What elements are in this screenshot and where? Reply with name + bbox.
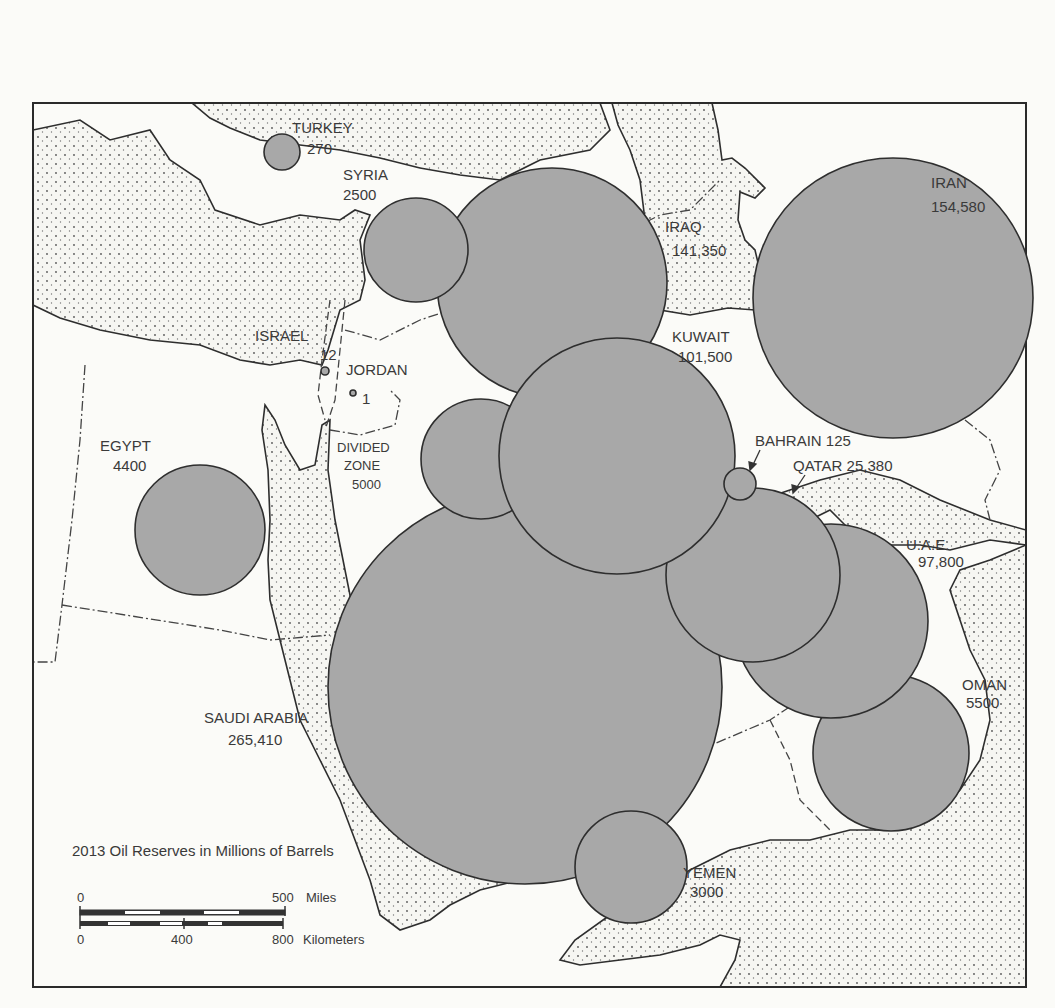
label-yemen-name: YEMEN [683,864,736,881]
map-title: 2013 Oil Reserves in Millions of Barrels [72,842,334,859]
label-iran-value: 154,580 [931,198,985,215]
scale-miles-gap-1 [125,911,160,914]
scale-km-end: 800 [272,932,294,947]
bubble-israel[interactable] [321,367,329,375]
label-saudi-name: SAUDI ARABIA [204,709,308,726]
bubble-iran[interactable] [753,158,1033,438]
scale-km-gap-2 [160,922,182,925]
label-oman-name: OMAN [962,676,1007,693]
label-iraq-name: IRAQ [665,218,702,235]
label-iran-name: IRAN [931,174,967,191]
label-divided-zone-line2: ZONE [344,458,380,473]
bubble-turkey[interactable] [264,134,300,170]
label-turkey-name: TURKEY [292,119,353,136]
bubble-syria[interactable] [364,198,468,302]
scale-bar: 0 500 Miles 0 400 800 Kilometers [77,890,365,947]
label-israel-value: 12 [320,346,337,363]
label-jordan-value: 1 [362,390,370,407]
label-kuwait-value: 101,500 [678,348,732,365]
label-divided-zone-value: 5000 [352,477,381,492]
border-egypt-libya [33,365,85,662]
label-saudi-value: 265,410 [228,731,282,748]
scale-miles-bar-fill [80,910,285,915]
label-egypt-name: EGYPT [100,437,151,454]
label-qatar: QATAR 25,380 [793,457,893,474]
label-jordan-name: JORDAN [346,361,408,378]
label-uae-name: U.A.E. [906,536,949,553]
label-divided-zone-line1: DIVIDED [337,440,390,455]
border-iran-pakistan [965,420,1000,520]
bubble-bahrain[interactable] [724,468,756,500]
bubble-egypt[interactable] [135,465,265,595]
scale-km-unit: Kilometers [303,932,365,947]
bubble-kuwait[interactable] [499,338,735,574]
label-oman-value: 5500 [966,694,999,711]
label-syria-value: 2500 [343,186,376,203]
border-jordan-iraq [345,310,450,340]
label-iraq-value: 141,350 [672,242,726,259]
scale-km-gap-3 [208,922,222,925]
bahrain-arrow-head [749,462,756,470]
scale-miles-start: 0 [77,890,84,905]
label-turkey-value: 270 [307,140,332,157]
label-kuwait-name: KUWAIT [672,328,730,345]
label-egypt-value: 4400 [113,457,146,474]
bubble-yemen[interactable] [575,811,687,923]
oil-reserves-map: TURKEY 270 SYRIA 2500 IRAQ 141,350 IRAN … [0,0,1055,1008]
scale-miles-end: 500 [272,890,294,905]
label-bahrain: BAHRAIN 125 [755,432,851,449]
scale-km-gap-1 [108,922,130,925]
scale-km-mid: 400 [171,932,193,947]
label-uae-value: 97,800 [918,553,964,570]
label-syria-name: SYRIA [343,166,388,183]
bubble-jordan[interactable] [350,390,356,396]
scale-miles-gap-2 [204,911,239,914]
label-israel-name: ISRAEL [255,327,308,344]
scale-km-start: 0 [77,932,84,947]
scale-miles-unit: Miles [306,890,337,905]
label-yemen-value: 3000 [690,883,723,900]
